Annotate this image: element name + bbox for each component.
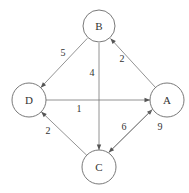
edge-a-to-b: 2 xyxy=(111,39,156,88)
edges-layer: 5421269 xyxy=(41,38,163,155)
arrowhead-icon xyxy=(145,98,151,102)
edge-weight-label: 2 xyxy=(46,125,51,136)
edge-weight-label: 4 xyxy=(90,67,95,78)
edge-weight-label: 2 xyxy=(120,53,125,64)
edge-line xyxy=(111,39,156,88)
nodes-layer: ABCD xyxy=(12,10,184,184)
edge-b-to-c: 4 xyxy=(90,43,102,150)
edge-weight-label: 1 xyxy=(77,103,82,114)
edge-weight-label: 6 xyxy=(122,121,127,132)
node-label: C xyxy=(95,161,102,173)
edge-a-to-c: 9 xyxy=(109,109,163,152)
edge-c-to-d: 2 xyxy=(41,112,86,155)
node-label: D xyxy=(25,94,33,106)
graph-diagram: 5421269 ABCD xyxy=(0,0,189,193)
edge-b-to-d: 5 xyxy=(41,38,88,87)
edge-weight-label: 9 xyxy=(158,121,163,132)
node-c: C xyxy=(82,150,116,184)
node-d: D xyxy=(12,83,46,117)
arrowhead-icon xyxy=(97,145,101,151)
edge-line xyxy=(109,109,153,152)
node-label: A xyxy=(163,94,171,106)
node-label: B xyxy=(95,20,102,32)
edge-d-to-a: 1 xyxy=(46,98,150,114)
node-a: A xyxy=(150,83,184,117)
node-b: B xyxy=(83,10,115,42)
edge-weight-label: 5 xyxy=(61,47,66,58)
